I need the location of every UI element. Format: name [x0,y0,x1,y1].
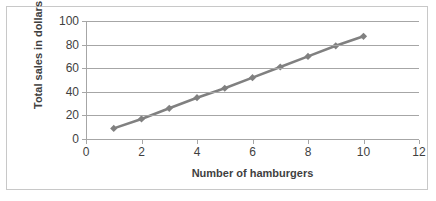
chart-screenshot: Total sales in dollars 020406080100 Numb… [0,0,436,201]
line-series-svg [86,21,419,139]
series-marker-diamond [138,115,145,122]
y-axis-tick-label: 40 [66,86,79,98]
y-axis-tick-label: 20 [66,109,79,121]
y-axis-tick-label: 60 [66,62,79,74]
series-marker-diamond [249,74,256,81]
y-tick-label-group: 020406080100 [47,7,79,157]
series-marker-diamond [360,33,367,40]
x-axis-tick [364,140,365,144]
x-axis-tick-label: 8 [293,146,323,158]
gridline-y [86,92,419,93]
y-axis-tick-label: 0 [72,133,79,145]
x-axis-tick [253,140,254,144]
x-axis-tick-label: 2 [127,146,157,158]
y-axis-tick [82,68,86,69]
series-marker-diamond [332,42,339,49]
x-axis-tick-label: 10 [349,146,379,158]
gridline-y [86,115,419,116]
x-axis-tick [142,140,143,144]
x-axis-tick-label: 12 [404,146,434,158]
series-marker-diamond [193,94,200,101]
x-axis-tick-label: 6 [238,146,268,158]
x-axis-tick [197,140,198,144]
y-axis-tick [82,115,86,116]
x-axis-title: Number of hamburgers [86,167,419,179]
y-axis-tick [82,45,86,46]
chart-frame: Total sales in dollars 020406080100 Numb… [6,6,428,190]
y-axis-tick-label: 100 [59,15,79,27]
y-axis-tick [82,92,86,93]
series-marker-diamond [110,125,117,132]
gridline-y [86,21,419,22]
y-axis-tick [82,21,86,22]
series-marker-diamond [221,85,228,92]
x-axis-tick-label: 0 [71,146,101,158]
y-axis-tick-label: 80 [66,39,79,51]
plot-area [86,21,419,139]
x-axis-tick [308,140,309,144]
series-marker-diamond [304,53,311,60]
gridline-y [86,68,419,69]
x-axis-tick [419,140,420,144]
gridline-y [86,45,419,46]
series-marker-diamond [277,63,284,70]
x-axis-tick [86,140,87,144]
x-axis-tick-label: 4 [182,146,212,158]
y-axis-title: Total sales in dollars [32,0,44,120]
series-marker-diamond [166,105,173,112]
